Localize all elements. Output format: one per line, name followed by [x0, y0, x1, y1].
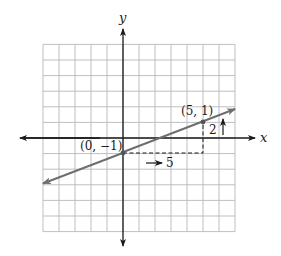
run-label: 5 [166, 156, 174, 170]
point-label-0-neg1: (0, −1) [80, 139, 122, 153]
coordinate-plane: x y (0, −1) (5, 1) 5 2 [0, 0, 281, 256]
rise-label: 2 [209, 123, 217, 137]
point-5-1 [201, 120, 206, 125]
x-axis-label: x [260, 130, 268, 145]
plotted-line-left [43, 153, 124, 184]
point-label-5-1: (5, 1) [181, 104, 213, 118]
y-axis-label: y [118, 10, 127, 25]
